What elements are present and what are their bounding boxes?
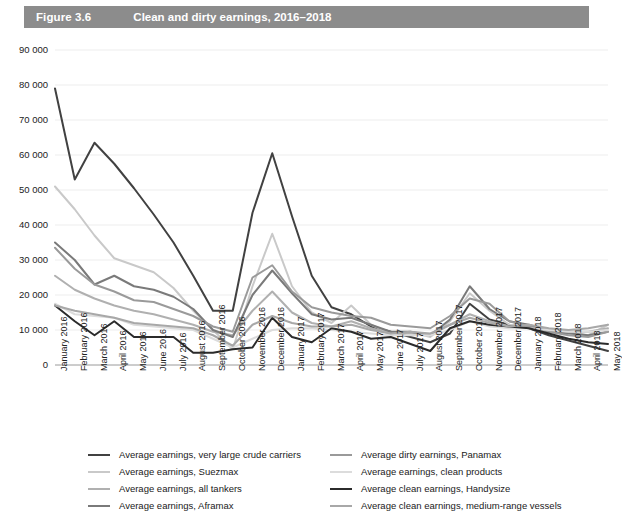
- legend-item[interactable]: Average earnings, very large crude carri…: [88, 446, 301, 463]
- x-axis-tick-label: February 2018: [553, 312, 563, 371]
- line-chart-plot: [0, 34, 613, 444]
- y-axis-tick-label: 20 000: [0, 289, 48, 300]
- x-axis-tick-label: May 2018: [612, 331, 622, 371]
- legend-item-label: Average earnings, clean products: [361, 466, 502, 477]
- legend-line-swatch: [330, 505, 352, 507]
- x-axis-tick-label: January 2018: [533, 316, 543, 371]
- chart-gridlines: [55, 50, 608, 365]
- figure-title-bar: Figure 3.6 Clean and dirty earnings, 201…: [24, 6, 589, 28]
- x-axis-tick-label: September 2017: [454, 304, 464, 371]
- page-title: Clean and dirty earnings, 2016–2018: [133, 11, 331, 23]
- x-axis-tick-label: April 2018: [592, 330, 602, 371]
- x-axis-tick-label: March 2018: [573, 323, 583, 371]
- x-axis-tick-label: October 2016: [237, 316, 247, 371]
- legend-column-right: Average dirty earnings, PanamaxAverage e…: [330, 446, 562, 514]
- x-axis-tick-label: July 2016: [178, 332, 188, 371]
- legend-item[interactable]: Average clean earnings, medium-range ves…: [330, 497, 562, 514]
- legend-line-swatch: [88, 471, 110, 473]
- legend-line-swatch: [88, 505, 110, 507]
- legend-item[interactable]: Average earnings, Aframax: [88, 497, 301, 514]
- chart-series-group: [55, 89, 608, 353]
- y-axis-tick-label: 30 000: [0, 254, 48, 265]
- x-axis-tick-label: November 2017: [494, 307, 504, 371]
- legend-item-label: Average earnings, Suezmax: [119, 466, 238, 477]
- chart-container: 90 00080 00070 00060 00050 00040 00030 0…: [0, 34, 613, 444]
- x-axis-tick-label: May 2017: [375, 331, 385, 371]
- legend-item-label: Average clean earnings, medium-range ves…: [361, 500, 562, 511]
- legend-item-label: Average clean earnings, Handysize: [361, 483, 510, 494]
- y-axis-tick-label: 70 000: [0, 114, 48, 125]
- x-axis-tick-label: April 2016: [118, 330, 128, 371]
- x-axis-tick-label: April 2017: [355, 330, 365, 371]
- legend-item[interactable]: Average earnings, all tankers: [88, 480, 301, 497]
- y-axis-tick-label: 80 000: [0, 79, 48, 90]
- x-axis-tick-label: March 2016: [99, 323, 109, 371]
- legend-column-left: Average earnings, very large crude carri…: [88, 446, 301, 514]
- legend-line-swatch: [330, 488, 352, 490]
- y-axis-tick-label: 60 000: [0, 149, 48, 160]
- x-axis-tick-label: August 2017: [434, 320, 444, 371]
- y-axis-tick-label: 10 000: [0, 324, 48, 335]
- x-axis-tick-label: August 2016: [197, 320, 207, 371]
- x-axis-tick-label: December 2017: [513, 307, 523, 371]
- legend-item[interactable]: Average clean earnings, Handysize: [330, 480, 562, 497]
- legend-item-label: Average earnings, very large crude carri…: [119, 449, 301, 460]
- x-axis-tick-label: June 2017: [395, 329, 405, 371]
- legend-item-label: Average earnings, Aframax: [119, 500, 233, 511]
- legend-line-swatch: [88, 488, 110, 490]
- x-axis-tick-label: November 2016: [257, 307, 267, 371]
- x-axis-tick-label: February 2017: [316, 312, 326, 371]
- legend-line-swatch: [330, 454, 352, 456]
- x-axis-tick-label: January 2016: [59, 316, 69, 371]
- x-axis-tick-label: March 2017: [336, 323, 346, 371]
- x-axis-tick-label: May 2016: [138, 331, 148, 371]
- legend-item-label: Average earnings, all tankers: [119, 483, 242, 494]
- x-axis-tick-label: July 2017: [415, 332, 425, 371]
- legend-item[interactable]: Average earnings, clean products: [330, 463, 562, 480]
- y-axis-tick-label: 90 000: [0, 44, 48, 55]
- chart-legend: Average earnings, very large crude carri…: [0, 446, 613, 518]
- y-axis-tick-label: 50 000: [0, 184, 48, 195]
- legend-line-swatch: [88, 454, 110, 456]
- legend-item[interactable]: Average earnings, Suezmax: [88, 463, 301, 480]
- y-axis-tick-label: 0: [0, 359, 48, 370]
- x-axis-tick-label: December 2016: [276, 307, 286, 371]
- legend-item[interactable]: Average dirty earnings, Panamax: [330, 446, 562, 463]
- x-axis-tick-label: January 2017: [296, 316, 306, 371]
- y-axis-tick-label: 40 000: [0, 219, 48, 230]
- x-axis-tick-label: October 2017: [474, 316, 484, 371]
- figure-number: Figure 3.6: [36, 11, 91, 23]
- x-axis-tick-label: February 2016: [79, 312, 89, 371]
- x-axis-tick-label: June 2016: [158, 329, 168, 371]
- legend-line-swatch: [330, 471, 352, 473]
- x-axis-tick-label: September 2016: [217, 304, 227, 371]
- legend-item-label: Average dirty earnings, Panamax: [361, 449, 501, 460]
